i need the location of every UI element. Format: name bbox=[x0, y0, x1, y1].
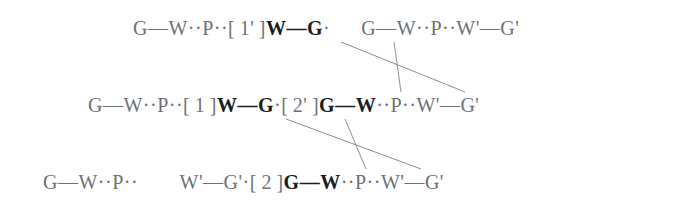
chain-segment: ··P··W'—G' bbox=[341, 171, 444, 193]
chain-segment: G—W··P·· bbox=[133, 17, 228, 39]
crosslink-segment: G—W bbox=[319, 94, 376, 116]
chain-segment: G—W··P·· bbox=[43, 171, 138, 193]
crosslink-segment: G—W bbox=[284, 171, 341, 193]
crosslink-segment: W—G bbox=[217, 94, 274, 116]
crosslink-segment: W—G bbox=[266, 17, 323, 39]
chain-row-2: G—W··P··[ 1 ]W—G·[ 2' ]G—W··P··W'—G' bbox=[88, 95, 479, 115]
chain-segment: G—W··P·· bbox=[88, 94, 183, 116]
chain-gap-spacer bbox=[330, 17, 361, 39]
crosslink-line bbox=[345, 119, 366, 169]
chain-segment: W'—G'· bbox=[180, 171, 250, 193]
crosslink-line bbox=[341, 42, 465, 92]
chain-segment: G—W··P··W'—G' bbox=[361, 17, 519, 39]
bracket-index-label: [ 2 ] bbox=[250, 171, 284, 193]
diagram-canvas: G—W··P··[ 1' ]W—G· G—W··P··W'—G' G—W··P·… bbox=[0, 0, 691, 222]
chain-row-1: G—W··P··[ 1' ]W—G· G—W··P··W'—G' bbox=[133, 18, 519, 38]
crosslink-line bbox=[286, 119, 421, 169]
bracket-index-label: [ 2' ] bbox=[281, 94, 319, 116]
bracket-index-label: [ 1' ] bbox=[228, 17, 266, 39]
chain-row-3: G—W··P·· W'—G'·[ 2 ]G—W··P··W'—G' bbox=[43, 172, 444, 192]
crosslink-line bbox=[394, 42, 401, 92]
chain-gap-spacer bbox=[138, 171, 180, 193]
bracket-index-label: [ 1 ] bbox=[183, 94, 217, 116]
chain-segment: ··P··W'—G' bbox=[376, 94, 479, 116]
